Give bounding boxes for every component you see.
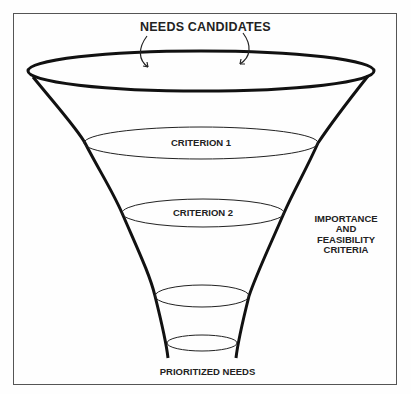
criterion-1-label: CRITERION 1 [84,137,318,148]
output-label: PRIORITIZED NEEDS [0,366,411,377]
side-label-line: CRITERIA [300,245,392,255]
funnel-graphic [0,0,411,394]
funnel-title: NEEDS CANDIDATES [0,20,411,34]
criteria-side-label: IMPORTANCE AND FEASIBILITY CRITERIA [300,214,392,256]
stage-3-ellipse [155,285,249,307]
stage-4-ellipse [167,335,237,351]
funnel-top-rim [28,51,374,91]
criterion-2-label: CRITERION 2 [122,207,284,218]
